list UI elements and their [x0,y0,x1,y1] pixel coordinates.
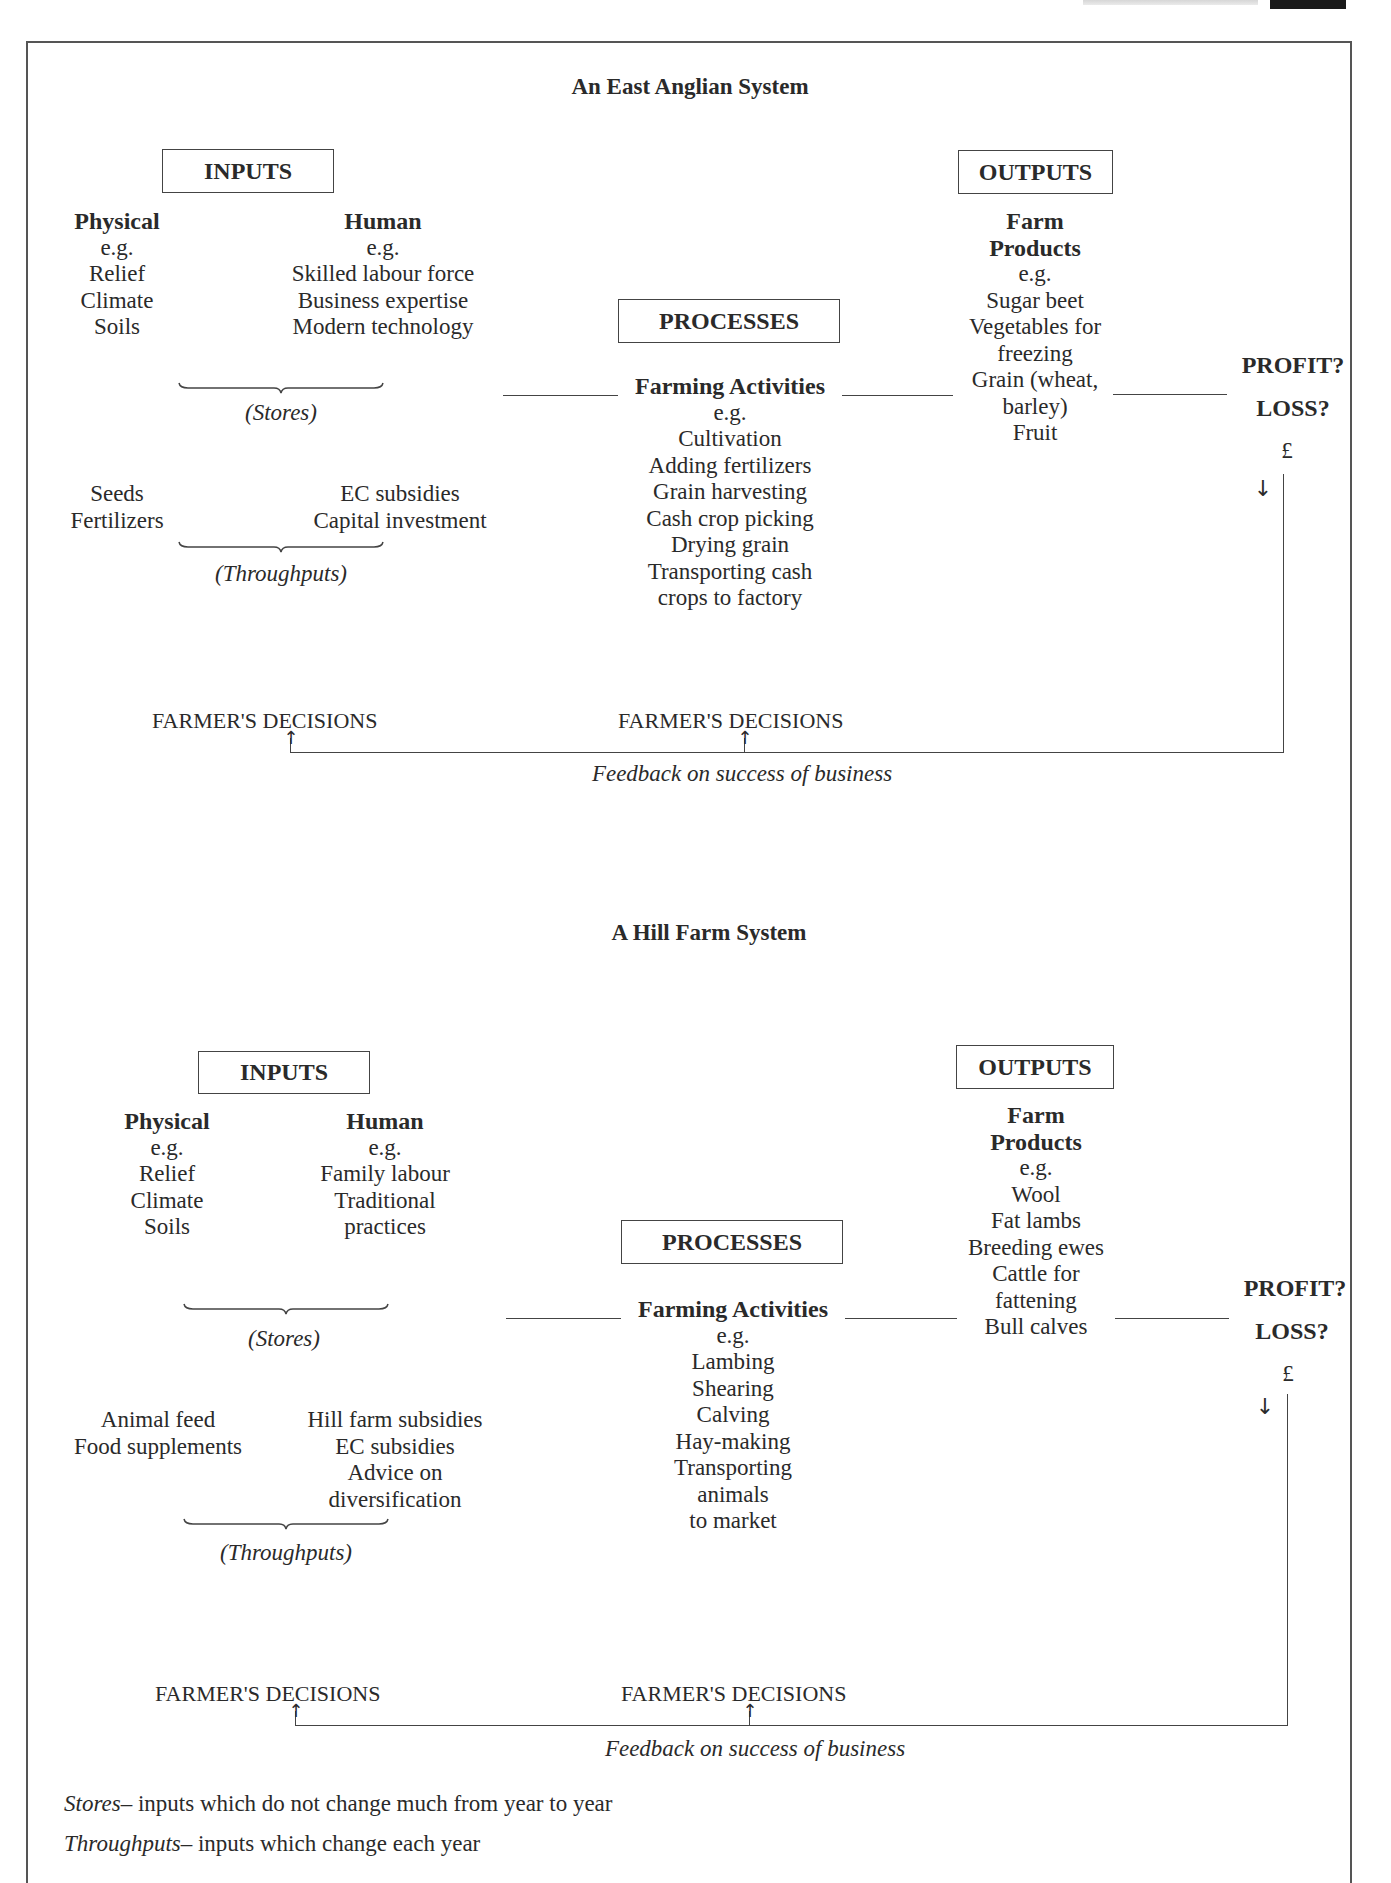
farmers-decisions-processes: FARMER'S DECISIONS [621,1681,846,1707]
human-item: Business expertise [292,288,475,315]
output-item: Bull calves [968,1314,1104,1341]
output-item: barley) [969,394,1101,421]
eg-label: e.g. [124,1135,209,1162]
footnote-definition: – inputs which change each year [181,1831,481,1856]
physical-item: Relief [124,1161,209,1188]
human-item: Skilled labour force [292,261,475,288]
physical-item: Relief [74,261,159,288]
stores-brace [183,1303,389,1315]
process-item: Drying grain [635,532,825,559]
throughputs-right: Hill farm subsidies EC subsidies Advice … [307,1407,482,1513]
output-item: Cattle for [968,1261,1104,1288]
connector-processes-outputs [842,395,953,396]
outputs-label: OUTPUTS [978,1054,1091,1081]
feedback-vertical-line [1283,474,1284,753]
outputs-label: OUTPUTS [979,159,1092,186]
physical-item: Soils [124,1214,209,1241]
feedback-vertical-line [1287,1394,1288,1726]
output-item: Breeding ewes [968,1235,1104,1262]
throughput-item: diversification [307,1487,482,1514]
throughput-item: Hill farm subsidies [307,1407,482,1434]
farming-activities-heading: Farming Activities [635,373,825,400]
connector-outputs-result [1113,394,1227,395]
connector-inputs-processes [503,395,618,396]
farmers-decisions-inputs: FARMER'S DECISIONS [155,1681,380,1707]
connector-outputs-result [1115,1318,1229,1319]
throughputs-label: (Throughputs) [220,1540,352,1566]
output-item: Fat lambs [968,1208,1104,1235]
footnote-term: Stores [64,1791,121,1816]
page-header-text [1083,0,1258,5]
loss-label: LOSS? [1255,1318,1328,1345]
process-item: Shearing [638,1376,828,1403]
physical-item: Soils [74,314,159,341]
eg-label: e.g. [969,261,1101,288]
profit-label: PROFIT? [1242,352,1345,379]
throughputs-brace [178,541,384,553]
processes-label: PROCESSES [659,308,799,335]
throughputs-left: Seeds Fertilizers [70,481,163,534]
inputs-box: INPUTS [198,1051,370,1094]
feedback-line [295,1725,1288,1726]
output-item: Wool [968,1182,1104,1209]
eg-label: e.g. [638,1323,828,1350]
eg-label: e.g. [74,235,159,262]
diagram-title: A Hill Farm System [612,920,807,946]
diagram-title: An East Anglian System [571,74,808,100]
processes-label: PROCESSES [662,1229,802,1256]
eg-label: e.g. [292,235,475,262]
process-item: Cash crop picking [635,506,825,533]
human-item: Traditional [320,1188,450,1215]
currency-label: £ [1282,1361,1294,1387]
arrow-down-icon: ↓ [1254,478,1272,500]
human-heading: Human [320,1108,450,1135]
page-header-tab [1270,0,1346,9]
physical-inputs: Physical e.g. Relief Climate Soils [74,208,159,341]
currency-label: £ [1281,438,1293,464]
process-item: Grain harvesting [635,479,825,506]
feedback-label: Feedback on success of business [592,761,892,787]
outputs-list: Farm Products e.g. Wool Fat lambs Breedi… [968,1102,1104,1341]
human-inputs: Human e.g. Skilled labour force Business… [292,208,475,341]
throughput-item: Seeds [70,481,163,508]
farm-products-heading: Products [969,235,1101,262]
throughput-item: Animal feed [74,1407,242,1434]
throughputs-brace [183,1518,389,1530]
farmers-decisions-inputs: FARMER'S DECISIONS [152,708,377,734]
physical-heading: Physical [124,1108,209,1135]
stores-label: (Stores) [248,1326,320,1352]
loss-label: LOSS? [1256,395,1329,422]
outputs-list: Farm Products e.g. Sugar beet Vegetables… [969,208,1101,447]
throughputs-left: Animal feed Food supplements [74,1407,242,1460]
farm-products-heading: Farm [968,1102,1104,1129]
inputs-box: INPUTS [162,149,334,193]
processes-list: Farming Activities e.g. Lambing Shearing… [638,1296,828,1535]
eg-label: e.g. [320,1135,450,1162]
human-inputs: Human e.g. Family labour Traditional pra… [320,1108,450,1241]
output-item: Sugar beet [969,288,1101,315]
throughput-item: Food supplements [74,1434,242,1461]
process-item: crops to factory [635,585,825,612]
output-item: fattening [968,1288,1104,1315]
farm-products-heading: Farm [969,208,1101,235]
processes-box: PROCESSES [618,299,840,343]
processes-box: PROCESSES [621,1220,843,1264]
footnote-throughputs: Throughputs– inputs which change each ye… [64,1831,480,1857]
process-item: Hay-making [638,1429,828,1456]
feedback-line [290,752,1284,753]
farm-products-heading: Products [968,1129,1104,1156]
inputs-label: INPUTS [240,1059,328,1086]
throughputs-label: (Throughputs) [215,561,347,587]
human-item: practices [320,1214,450,1241]
eg-label: e.g. [968,1155,1104,1182]
process-item: Adding fertilizers [635,453,825,480]
profit-label: PROFIT? [1244,1275,1347,1302]
physical-heading: Physical [74,208,159,235]
processes-list: Farming Activities e.g. Cultivation Addi… [635,373,825,612]
physical-inputs: Physical e.g. Relief Climate Soils [124,1108,209,1241]
footnote-term: Throughputs [64,1831,181,1856]
throughputs-right: EC subsidies Capital investment [313,481,486,534]
arrow-down-icon: ↓ [1256,1396,1274,1418]
eg-label: e.g. [635,400,825,427]
human-item: Family labour [320,1161,450,1188]
